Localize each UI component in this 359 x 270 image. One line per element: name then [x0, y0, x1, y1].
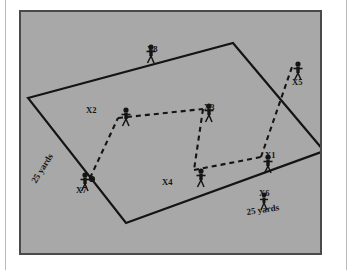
drill-diagram: X8 X5 X2 X3 X1 X4 X7 X6 25 yards 25 yard…: [19, 10, 322, 255]
pass-x3-x4: [194, 109, 203, 170]
player-label-x7: X7: [76, 186, 86, 195]
page-rule-right: [346, 0, 347, 270]
pass-x2-x3: [118, 109, 203, 118]
player-label-x4: X4: [162, 178, 172, 187]
field-outline: [28, 43, 320, 223]
player-label-x1: X1: [265, 151, 275, 160]
player-label-x2: X2: [86, 106, 96, 115]
ball-icon: [89, 176, 95, 182]
player-x4: [197, 168, 206, 187]
pass-x4-x1: [194, 157, 261, 170]
figure-page: X8 X5 X2 X3 X1 X4 X7 X6 25 yards 25 yard…: [0, 0, 359, 270]
player-label-x8: X8: [147, 45, 157, 54]
pass-path: [90, 67, 292, 178]
player-label-x6: X6: [259, 189, 269, 198]
player-label-x3: X3: [204, 103, 214, 112]
page-rule-left: [5, 0, 6, 270]
diagram-canvas: [21, 12, 320, 253]
player-label-x5: X5: [292, 78, 302, 87]
pass-x7-x2: [90, 118, 118, 178]
